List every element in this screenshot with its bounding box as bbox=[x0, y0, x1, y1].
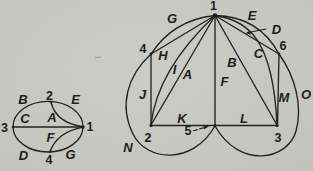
five-callout-arrowhead bbox=[203, 126, 209, 130]
left-edge-label-A: A bbox=[46, 110, 56, 125]
right-edge-label-D: D bbox=[272, 22, 282, 37]
right-edge-label-H: H bbox=[158, 48, 168, 63]
right-vertex-6-dot bbox=[278, 53, 281, 56]
graph-diagrams-svg: 2 3 1 4 B E C A F D G bbox=[0, 0, 313, 171]
left-edge-label-C: C bbox=[20, 111, 30, 126]
right-edge-label-K: K bbox=[177, 111, 188, 126]
left-vertex-label-4: 4 bbox=[46, 153, 53, 167]
right-edge-label-A: A bbox=[182, 67, 192, 82]
left-edge-label-B: B bbox=[18, 92, 27, 107]
right-edge-label-L: L bbox=[240, 111, 248, 126]
right-vertex-2-dot bbox=[149, 124, 152, 127]
right-edge-label-C: C bbox=[254, 46, 264, 61]
right-vertex-label-5: 5 bbox=[185, 124, 192, 138]
left-vertex-label-1: 1 bbox=[87, 120, 94, 134]
right-vertex-3-dot bbox=[275, 124, 278, 127]
left-graph: 2 3 1 4 B E C A F D G bbox=[1, 89, 94, 167]
right-vertex-1-dot bbox=[213, 13, 218, 18]
right-graph: 1 4 6 2 3 5 G E D H I A B C F J M O K L … bbox=[123, 0, 311, 156]
right-edge-label-F: F bbox=[221, 74, 230, 89]
right-vertex-label-6: 6 bbox=[280, 39, 287, 53]
right-edge-label-O: O bbox=[301, 87, 311, 102]
right-vertex-label-4: 4 bbox=[140, 42, 147, 56]
five-callout-arrow-line bbox=[194, 128, 204, 131]
right-vertex-5-dot bbox=[214, 124, 217, 127]
left-vertex-3-dot bbox=[12, 126, 14, 128]
right-edge-label-J: J bbox=[139, 87, 147, 102]
left-edge-label-D: D bbox=[19, 148, 29, 163]
right-edge-label-B: B bbox=[227, 55, 236, 70]
right-edge-B-line bbox=[215, 16, 277, 126]
left-vertex-1-dot bbox=[81, 125, 84, 128]
right-edge-label-I: I bbox=[173, 62, 177, 77]
left-edge-label-G: G bbox=[65, 147, 75, 162]
right-vertex-label-2: 2 bbox=[145, 131, 152, 145]
right-vertex-label-1: 1 bbox=[210, 0, 217, 13]
right-edge-label-E: E bbox=[248, 8, 257, 23]
left-edge-label-F: F bbox=[47, 130, 56, 145]
right-edge-label-N: N bbox=[123, 140, 133, 155]
right-vertex-4-dot bbox=[150, 53, 153, 56]
stray-scan-mark bbox=[95, 57, 101, 58]
left-vertex-label-2: 2 bbox=[46, 89, 53, 103]
right-vertex-label-3: 3 bbox=[275, 131, 282, 145]
right-edge-label-G: G bbox=[167, 11, 177, 26]
left-vertex-label-3: 3 bbox=[1, 121, 8, 135]
left-edge-label-E: E bbox=[71, 92, 80, 107]
right-edge-label-M: M bbox=[279, 90, 291, 105]
scanned-figure-page: 2 3 1 4 B E C A F D G bbox=[0, 0, 313, 171]
